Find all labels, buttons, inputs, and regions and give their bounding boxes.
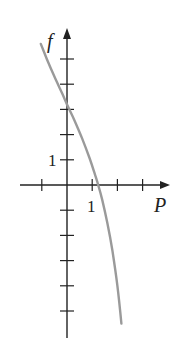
y-axis-arrow-icon <box>63 28 71 39</box>
x-axis <box>20 179 170 191</box>
x-axis-label: P <box>153 194 166 216</box>
f-curve <box>41 44 122 324</box>
chart: f P 1 1 <box>0 0 176 362</box>
x-tick-label-1: 1 <box>87 197 96 216</box>
y-axis <box>60 28 74 338</box>
y-tick-label-1: 1 <box>48 151 57 170</box>
y-axis-label: f <box>47 30 55 53</box>
x-axis-arrow-icon <box>160 181 170 189</box>
